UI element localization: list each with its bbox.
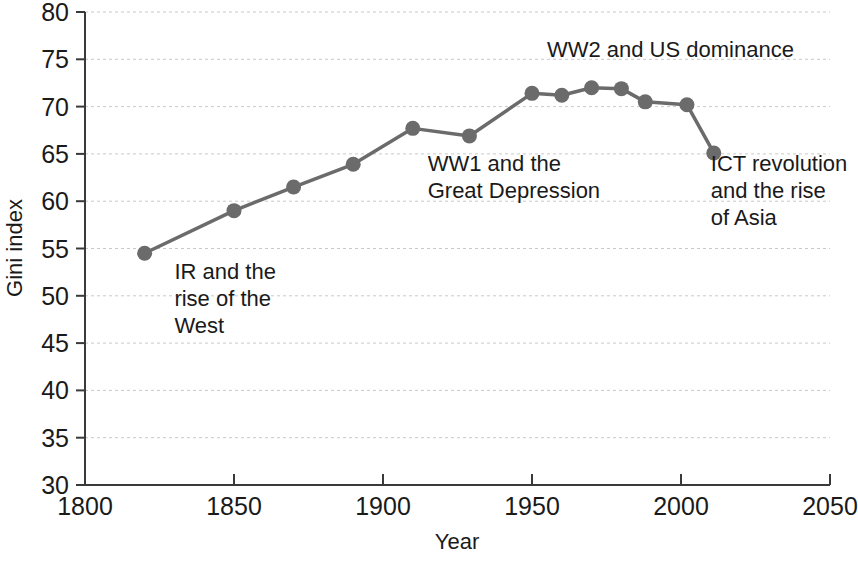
annotation-line: of Asia [711,205,778,230]
y-tick-label-50: 50 [41,282,69,310]
annotation-ww2-us-dominance: WW2 and US dominance [547,37,794,62]
x-tick-label-1950: 1950 [504,492,560,520]
x-tick-label-1900: 1900 [355,492,411,520]
annotation-ww1-depression: WW1 and theGreat Depression [428,151,600,203]
data-point [584,80,599,95]
x-tick-label-2000: 2000 [653,492,709,520]
y-tick-label-45: 45 [41,329,69,357]
data-point [525,86,540,101]
annotation-line: Great Depression [428,178,600,203]
y-tick-label-70: 70 [41,93,69,121]
y-tick-label-35: 35 [41,424,69,452]
annotation-line: West [174,313,224,338]
data-point [227,203,242,218]
data-point [679,97,694,112]
data-point [462,128,477,143]
data-point [286,180,301,195]
annotation-line: ICT revolution [711,151,848,176]
annotation-line: and the rise [711,178,826,203]
annotation-line: IR and the [174,259,276,284]
y-axis-tick-labels: 3035404550556065707580 [41,0,69,499]
annotation-line: WW2 and US dominance [547,37,794,62]
annotation-ir-west: IR and therise of theWest [174,259,276,338]
y-axis-title: Gini index [2,199,27,297]
y-tick-label-40: 40 [41,376,69,404]
x-tick-label-1850: 1850 [206,492,262,520]
x-axis-ticks [85,474,830,485]
data-point [405,121,420,136]
gini-index-line-chart: 3035404550556065707580 18001850190019502… [0,0,858,562]
data-point [346,157,361,172]
annotation-ict-asia: ICT revolutionand the riseof Asia [711,151,848,230]
x-axis-title: Year [435,529,479,554]
data-point [137,246,152,261]
x-tick-label-1800: 1800 [57,492,113,520]
y-tick-label-55: 55 [41,235,69,263]
grid-lines [85,12,830,485]
annotation-layer: IR and therise of theWestWW1 and theGrea… [174,37,847,337]
x-axis-tick-labels: 180018501900195020002050 [57,492,858,520]
y-tick-label-65: 65 [41,140,69,168]
x-tick-label-2050: 2050 [802,492,858,520]
data-point [638,94,653,109]
y-axis-ticks [76,12,85,485]
chart-page: 3035404550556065707580 18001850190019502… [0,0,858,562]
annotation-line: WW1 and the [428,151,561,176]
annotation-line: rise of the [174,286,271,311]
y-tick-label-80: 80 [41,0,69,26]
y-tick-label-60: 60 [41,187,69,215]
y-tick-label-75: 75 [41,45,69,73]
data-point [614,81,629,96]
data-point [554,88,569,103]
